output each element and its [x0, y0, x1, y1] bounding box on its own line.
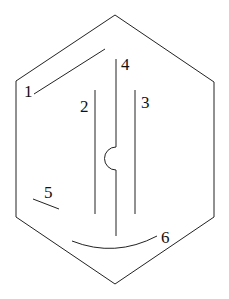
label-2: 2 [80, 97, 89, 116]
hexagon-diagram: 1 2 3 4 5 6 [0, 0, 229, 299]
label-1: 1 [24, 82, 33, 101]
label-6: 6 [161, 228, 170, 247]
label-4: 4 [121, 55, 130, 74]
arc-6 [72, 236, 157, 248]
hexagon-outline [16, 15, 214, 284]
label-3: 3 [141, 93, 150, 112]
line-1 [34, 49, 105, 94]
line-4 [105, 59, 116, 236]
label-5: 5 [44, 183, 53, 202]
